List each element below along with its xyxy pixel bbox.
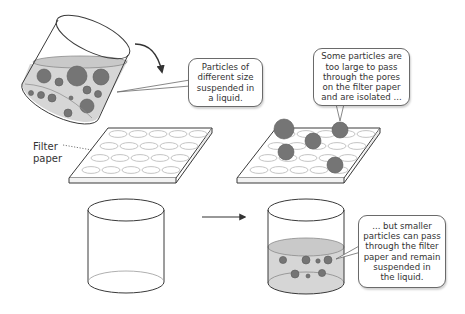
filter-paper-left	[69, 128, 212, 183]
callout-filtrate: ... but smaller particles can pass throu…	[358, 215, 446, 288]
callout-mixture: Particles of different size suspended in…	[188, 58, 263, 107]
filter-paper-right	[237, 119, 380, 183]
tilted-beaker	[22, 7, 136, 124]
curved-arrow-icon	[135, 44, 162, 72]
filtration-diagram: Filter paper Particles of different size…	[0, 0, 465, 314]
filter-paper-label: Filter paper	[33, 141, 62, 165]
callout-retained: Some particles are too large to pass thr…	[313, 48, 410, 106]
filtrate-beaker	[268, 199, 344, 294]
callout-pointer-mixture	[117, 80, 190, 92]
callout-pointer-retained	[336, 104, 344, 121]
empty-beaker	[88, 199, 164, 293]
filter-paper-leader	[63, 145, 92, 150]
